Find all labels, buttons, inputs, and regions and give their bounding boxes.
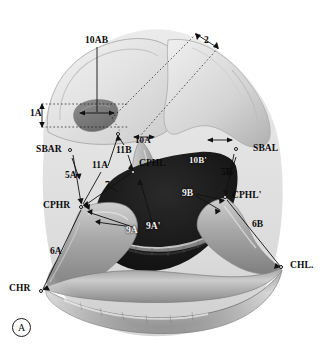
label-9b: 9B: [182, 189, 193, 199]
label-7: 7: [105, 181, 110, 191]
marker-cphr: [79, 205, 83, 209]
marker-chl: [279, 265, 283, 269]
label-10ab: 10AB: [85, 36, 108, 46]
marker-11-apex: [116, 132, 120, 136]
label-9a-prime: 9A': [146, 222, 161, 232]
label-6a: 6A: [50, 247, 62, 257]
label-11b: 11B: [116, 146, 132, 156]
label-1a: 1A: [30, 109, 42, 119]
label-5a: 5A: [65, 171, 77, 181]
marker-chr: [39, 289, 43, 293]
label-10a-prime: 10A': [135, 136, 153, 145]
label-2: 2: [204, 36, 209, 46]
label-10b-prime: 10B': [189, 156, 207, 165]
label-6b: 6B: [252, 220, 263, 230]
label-cphl-prime: CPHL': [232, 191, 262, 201]
label-chl: CHL.: [290, 261, 313, 271]
label-sbar: SBAR: [36, 145, 62, 155]
label-5b: 5B: [221, 168, 232, 178]
marker-cphl-prime: [223, 195, 227, 199]
marker-sbal: [234, 147, 238, 151]
label-chr: CHR: [9, 284, 30, 294]
marker-sbar: [68, 148, 72, 152]
anatomical-figure-panel: SBAR SBAL CPHR CPHL CPHL' CHR CHL. 10AB …: [0, 0, 325, 349]
label-11a: 11A: [92, 161, 108, 171]
figure-panel-id: A: [12, 318, 31, 337]
label-cphr: CPHR: [43, 201, 70, 211]
label-sbal: SBAL: [253, 144, 278, 154]
label-cphl: CPHL: [139, 159, 166, 169]
marker-cphl: [131, 170, 135, 174]
label-9a: 9A: [126, 226, 138, 236]
cleft-lip-illustration: [0, 0, 325, 349]
